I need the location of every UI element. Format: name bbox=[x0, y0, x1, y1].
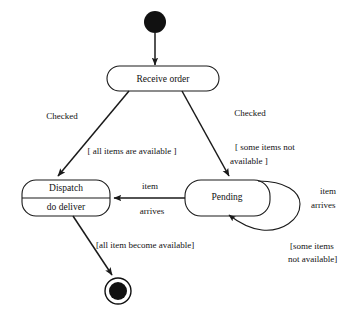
transition-receive-order-to-dispatch[interactable] bbox=[58, 91, 129, 176]
label-item-arrives-line2: arrives bbox=[140, 206, 165, 216]
label-self-loop-item: item bbox=[320, 186, 336, 196]
label-self-loop-guard-line1: [some items bbox=[290, 241, 334, 251]
state-dispatch-label: Dispatch bbox=[49, 183, 83, 193]
label-checked-right: Checked bbox=[234, 108, 266, 118]
transition-receive-order-to-pending[interactable] bbox=[182, 91, 229, 176]
state-diagram-svg: Receive order Checked Checked [ all item… bbox=[0, 0, 359, 315]
state-diagram-canvas: Receive order Checked Checked [ all item… bbox=[0, 0, 359, 315]
label-checked-left: Checked bbox=[46, 111, 78, 121]
state-dispatch-activity: do deliver bbox=[47, 202, 86, 212]
label-self-loop-arrives: arrives bbox=[311, 200, 336, 210]
label-item-arrives-line1: item bbox=[142, 181, 158, 191]
label-guard-all-items-available: [ all items are available ] bbox=[87, 146, 176, 156]
state-receive-order-label: Receive order bbox=[136, 74, 190, 84]
label-guard-some-items-not-available-line1: [ some items not bbox=[235, 142, 295, 152]
label-self-loop-guard-line2: not available] bbox=[288, 254, 337, 264]
label-guard-all-item-become-available: [all item become available] bbox=[96, 240, 194, 250]
state-pending-label: Pending bbox=[211, 192, 242, 202]
initial-state-node[interactable] bbox=[144, 11, 166, 33]
label-guard-some-items-not-available-line2: available ] bbox=[230, 156, 268, 166]
final-state-inner-dot[interactable] bbox=[109, 282, 127, 300]
